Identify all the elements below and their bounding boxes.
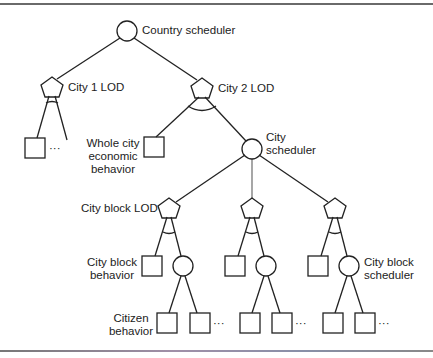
citizen-behavior-node-3 xyxy=(240,313,260,333)
city-block-behavior-label: City block behavior xyxy=(84,256,140,282)
citizen-behavior-label-line1: Citizen xyxy=(108,312,154,325)
city-scheduler-label-line2: scheduler xyxy=(266,144,316,157)
citizen-ellipsis-2: ··· xyxy=(295,317,307,330)
city-scheduler-label: City scheduler xyxy=(266,131,316,157)
city-scheduler-label-line1: City xyxy=(266,131,316,144)
block-scheduler-node-2 xyxy=(256,256,276,276)
city2-lod-node xyxy=(191,78,213,98)
whole-city-label: Whole city economic behavior xyxy=(86,137,140,176)
city1-lod-label: City 1 LOD xyxy=(68,81,124,94)
country-scheduler-node xyxy=(117,21,137,41)
city-block-scheduler-label-line1: City block xyxy=(364,256,414,269)
city-block-lod-label: City block LOD xyxy=(81,202,158,215)
block-behavior-node-2 xyxy=(225,256,245,276)
citizen-ellipsis-1: ··· xyxy=(213,317,225,330)
whole-city-label-line3: behavior xyxy=(86,163,140,176)
citizen-behavior-node-1 xyxy=(157,313,177,333)
city2-lod-label: City 2 LOD xyxy=(218,82,274,95)
citizen-behavior-label-line2: behavior xyxy=(108,325,154,338)
block-behavior-node-3 xyxy=(308,256,328,276)
citizen-behavior-node-5 xyxy=(323,313,343,333)
city-block-behavior-label-line2: behavior xyxy=(84,269,140,282)
country-scheduler-label: Country scheduler xyxy=(142,24,235,37)
block-behavior-node-1 xyxy=(142,256,162,276)
city-block-scheduler-label-line2: scheduler xyxy=(364,269,414,282)
city1-lod-node xyxy=(41,77,63,97)
citizen-behavior-label: Citizen behavior xyxy=(108,312,154,338)
scheduler-nodes xyxy=(117,21,359,276)
block-scheduler-node-3 xyxy=(339,256,359,276)
block-scheduler-node-1 xyxy=(173,256,193,276)
citizen-behavior-node-4 xyxy=(272,313,292,333)
citizen-behavior-node-2 xyxy=(190,313,210,333)
citizen-behavior-node-6 xyxy=(355,313,375,333)
whole-city-behavior-node xyxy=(144,137,164,157)
city1-behavior-node xyxy=(25,138,45,158)
city-block-scheduler-label: City block scheduler xyxy=(364,256,414,282)
city-scheduler-node xyxy=(242,139,262,159)
citizen-ellipsis-3: ··· xyxy=(378,317,390,330)
city1-ellipsis: ··· xyxy=(49,142,61,155)
block-lod-node-2 xyxy=(241,198,263,218)
tree-diagram xyxy=(0,0,433,358)
behavior-nodes xyxy=(25,137,375,333)
whole-city-label-line1: Whole city xyxy=(86,137,140,150)
whole-city-label-line2: economic xyxy=(86,150,140,163)
city-block-behavior-label-line1: City block xyxy=(84,256,140,269)
